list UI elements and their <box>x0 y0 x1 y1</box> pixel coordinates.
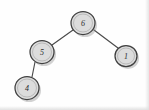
tree-node-root[interactable]: 6 <box>71 12 97 38</box>
binary-tree-graphic: 6 5 1 4 <box>0 0 149 110</box>
node-label-root: 6 <box>81 19 85 28</box>
tree-node-right[interactable]: 1 <box>115 46 139 70</box>
edge-left-to-left-left <box>32 62 35 77</box>
tree-diagram-canvas: 6 5 1 4 <box>0 0 149 110</box>
edge-root-to-left <box>52 30 73 45</box>
node-label-left-left: 4 <box>25 84 29 93</box>
edge-root-to-right <box>94 30 118 48</box>
node-label-right: 1 <box>124 52 128 61</box>
node-label-left: 5 <box>40 48 44 57</box>
tree-node-left-left[interactable]: 4 <box>15 77 41 103</box>
